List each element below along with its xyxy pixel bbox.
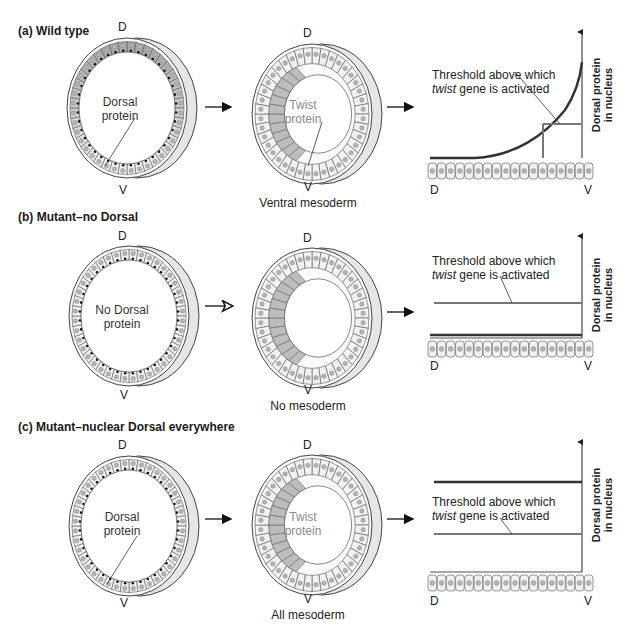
x-axis-ventral: V bbox=[584, 594, 592, 608]
x-axis-ventral: V bbox=[584, 359, 592, 373]
x-axis-dorsal: D bbox=[430, 183, 439, 197]
cell-row bbox=[428, 340, 598, 360]
outcome-caption: Ventral mesoderm bbox=[208, 196, 408, 210]
cell-row bbox=[428, 574, 598, 594]
outcome-caption: All mesoderm bbox=[208, 608, 408, 622]
ventral-marker: V bbox=[119, 183, 127, 197]
threshold-annotation: Threshold above which twist gene is acti… bbox=[432, 495, 555, 523]
threshold-annotation: Threshold above which twist gene is acti… bbox=[432, 254, 555, 282]
cell-row bbox=[428, 162, 598, 182]
dorsal-marker: D bbox=[303, 231, 312, 245]
dorsal-protein-label: Dorsalprotein bbox=[75, 95, 165, 123]
y-axis-label: Dorsal proteinin nucleus bbox=[590, 245, 614, 345]
ventral-marker: V bbox=[304, 180, 312, 194]
dorsal-marker: D bbox=[303, 438, 312, 452]
x-axis-dorsal: D bbox=[430, 594, 439, 608]
arrow-right-open-icon bbox=[205, 300, 237, 312]
arrow-right-icon bbox=[387, 514, 417, 524]
arrow-right-icon bbox=[387, 307, 417, 317]
twist-protein-label: Twistprotein bbox=[258, 98, 348, 126]
x-axis-ventral: V bbox=[584, 183, 592, 197]
ventral-marker: V bbox=[120, 596, 128, 610]
panel-c-label: (c) Mutant–nuclear Dorsal everywhere bbox=[18, 420, 235, 434]
twist-protein-label: Twistprotein bbox=[258, 510, 348, 538]
y-axis-label: Dorsal proteinin nucleus bbox=[590, 45, 614, 145]
threshold-annotation: Threshold above which twist gene is acti… bbox=[432, 68, 555, 96]
arrow-right-icon bbox=[387, 102, 417, 112]
ventral-marker: V bbox=[304, 383, 312, 397]
ventral-marker: V bbox=[304, 592, 312, 606]
ventral-marker: V bbox=[120, 388, 128, 402]
embryo-ring-no-mesoderm bbox=[250, 246, 385, 391]
dorsal-marker: D bbox=[118, 20, 127, 34]
x-axis-dorsal: D bbox=[430, 359, 439, 373]
no-dorsal-protein-label: No Dorsalprotein bbox=[77, 303, 167, 331]
dorsal-marker: D bbox=[118, 229, 127, 243]
panel-b-label: (b) Mutant–no Dorsal bbox=[18, 210, 138, 224]
dorsal-marker: D bbox=[118, 438, 127, 452]
arrow-right-icon bbox=[205, 514, 235, 524]
dorsal-protein-label: Dorsalprotein bbox=[77, 510, 167, 538]
arrow-right-icon bbox=[205, 102, 235, 112]
y-axis-label: Dorsal proteinin nucleus bbox=[590, 455, 614, 555]
outcome-caption: No mesoderm bbox=[208, 399, 408, 413]
dorsal-marker: D bbox=[303, 26, 312, 40]
